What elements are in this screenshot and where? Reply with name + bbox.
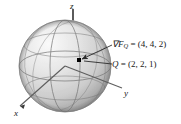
point-equals: =	[119, 59, 129, 69]
axis-label-z: z	[70, 2, 74, 11]
gradient-annotation: ∇FQ = (4, 4, 2)	[112, 40, 166, 50]
gradient-equals: =	[128, 39, 138, 49]
sphere-gradient-figure: z y x ∇FQ = (4, 4, 2) Q = (2, 2, 1)	[0, 0, 181, 124]
gradient-symbol: ∇F	[112, 39, 124, 49]
axis-label-x: x	[14, 109, 18, 118]
point-annotation: Q = (2, 2, 1)	[112, 60, 157, 69]
point-value: (2, 2, 1)	[128, 59, 157, 69]
axis-label-y: y	[124, 89, 128, 98]
gradient-value: (4, 4, 2)	[138, 39, 167, 49]
point-q-marker	[77, 58, 81, 62]
